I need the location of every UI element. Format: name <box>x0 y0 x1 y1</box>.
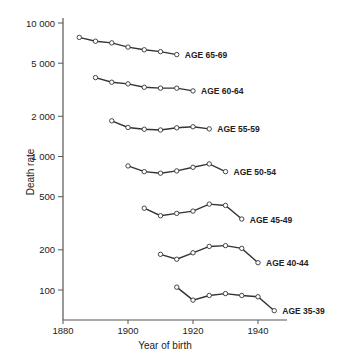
data-point-marker <box>191 125 195 129</box>
x-tick-label: 1920 <box>182 325 203 336</box>
data-point-marker <box>175 52 179 56</box>
data-point-marker <box>191 89 195 93</box>
data-point-marker <box>158 171 162 175</box>
chart-canvas: 10 0005 0002 0001 0005002001001880190019… <box>0 0 344 360</box>
series-label: AGE 35-39 <box>282 306 325 316</box>
x-tick-label: 1940 <box>247 325 268 336</box>
data-point-marker <box>158 128 162 132</box>
data-point-marker <box>191 298 195 302</box>
data-point-marker <box>142 85 146 89</box>
series-line: AGE 45-49 <box>142 202 292 225</box>
data-point-marker <box>142 48 146 52</box>
data-point-marker <box>207 293 211 297</box>
data-point-marker <box>142 127 146 131</box>
data-point-marker <box>223 243 227 247</box>
data-point-marker <box>142 206 146 210</box>
data-point-marker <box>240 246 244 250</box>
series-line: AGE 60-64 <box>93 75 243 96</box>
y-tick-label: 500 <box>39 191 55 202</box>
data-point-marker <box>256 295 260 299</box>
data-point-marker <box>207 162 211 166</box>
data-point-marker <box>207 244 211 248</box>
data-point-marker <box>77 35 81 39</box>
series-label: AGE 65-69 <box>185 50 228 60</box>
data-point-marker <box>256 261 260 265</box>
y-tick-label: 10 000 <box>26 18 55 29</box>
data-point-marker <box>175 285 179 289</box>
series-label: AGE 40-44 <box>266 258 309 268</box>
data-point-marker <box>110 119 114 123</box>
x-tick-label: 1900 <box>117 325 138 336</box>
data-point-marker <box>110 41 114 45</box>
data-point-marker <box>175 211 179 215</box>
x-axis-label: Year of birth <box>138 340 192 351</box>
data-point-marker <box>191 251 195 255</box>
data-point-marker <box>158 214 162 218</box>
y-tick-label: 5 000 <box>31 58 55 69</box>
data-point-marker <box>126 82 130 86</box>
death-rate-chart: 10 0005 0002 0001 0005002001001880190019… <box>0 0 344 360</box>
data-point-marker <box>142 169 146 173</box>
y-tick-label: 2 000 <box>31 111 55 122</box>
series-label: AGE 50-54 <box>234 167 277 177</box>
series-label: AGE 55-59 <box>217 124 260 134</box>
data-point-marker <box>207 202 211 206</box>
data-point-marker <box>126 164 130 168</box>
y-tick-label: 200 <box>39 244 55 255</box>
data-point-marker <box>175 169 179 173</box>
data-point-marker <box>223 203 227 207</box>
data-point-marker <box>175 257 179 261</box>
y-tick-label: 100 <box>39 285 55 296</box>
series-line: AGE 50-54 <box>126 162 276 177</box>
x-tick-label: 1880 <box>52 325 73 336</box>
data-point-marker <box>207 127 211 131</box>
data-point-marker <box>158 252 162 256</box>
data-point-marker <box>223 291 227 295</box>
data-point-marker <box>126 45 130 49</box>
data-point-marker <box>175 126 179 130</box>
y-axis-label: Death rate <box>25 148 36 195</box>
data-point-marker <box>223 169 227 173</box>
data-point-marker <box>272 308 276 312</box>
data-point-marker <box>175 86 179 90</box>
series-label: AGE 60-64 <box>201 86 244 96</box>
data-point-marker <box>93 75 97 79</box>
series-line: AGE 65-69 <box>77 35 227 60</box>
series-line: AGE 40-44 <box>158 243 308 268</box>
data-point-marker <box>158 86 162 90</box>
series-group: AGE 65-69AGE 60-64AGE 55-59AGE 50-54AGE … <box>77 35 325 316</box>
series-label: AGE 45-49 <box>250 215 293 225</box>
data-point-marker <box>110 80 114 84</box>
data-point-marker <box>93 39 97 43</box>
data-point-marker <box>191 165 195 169</box>
data-point-marker <box>191 209 195 213</box>
data-point-marker <box>240 217 244 221</box>
data-point-marker <box>240 293 244 297</box>
data-point-marker <box>158 49 162 53</box>
data-point-marker <box>126 125 130 129</box>
series-line: AGE 55-59 <box>110 119 260 135</box>
series-line: AGE 35-39 <box>175 285 325 316</box>
